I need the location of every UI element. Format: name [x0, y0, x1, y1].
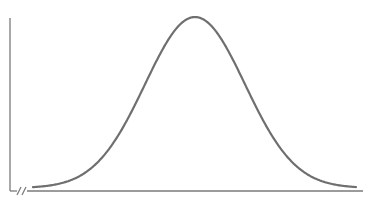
- bell-curve-plot: [0, 0, 377, 210]
- normal-distribution-curve: [33, 17, 356, 187]
- bell-curve-figure: [0, 0, 377, 210]
- axis-break-icon: [17, 187, 26, 195]
